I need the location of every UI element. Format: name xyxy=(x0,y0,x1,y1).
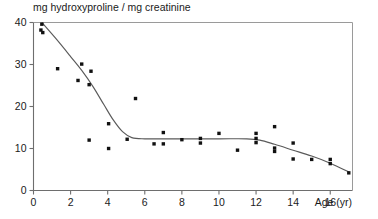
data-point xyxy=(180,138,183,141)
chart-figure: 010203040 0246810121416 mg hydroxyprolin… xyxy=(0,0,378,219)
data-point xyxy=(273,125,276,128)
x-tick-label: 14 xyxy=(287,196,299,208)
data-point xyxy=(41,31,44,34)
y-tick-label: 20 xyxy=(15,100,27,112)
y-tick-label: 0 xyxy=(21,184,27,196)
data-point xyxy=(107,147,110,150)
x-tick-label: 12 xyxy=(250,196,262,208)
data-point xyxy=(199,137,202,140)
data-point xyxy=(217,132,220,135)
x-axis-label: Age (yr) xyxy=(315,196,352,208)
data-point xyxy=(87,83,90,86)
data-point xyxy=(87,138,90,141)
plot-border-top-right xyxy=(34,23,353,191)
data-point xyxy=(56,67,59,70)
data-point xyxy=(80,62,83,65)
data-point xyxy=(236,148,239,151)
data-point xyxy=(254,137,257,140)
data-point xyxy=(89,70,92,73)
data-point xyxy=(76,79,79,82)
data-points xyxy=(39,22,350,174)
data-point xyxy=(162,142,165,145)
trend-line xyxy=(42,23,349,173)
axis-spines xyxy=(34,23,353,191)
data-point xyxy=(254,132,257,135)
data-point xyxy=(310,158,313,161)
y-tick-label: 30 xyxy=(15,58,27,70)
data-point xyxy=(347,171,350,174)
x-tick-label: 2 xyxy=(68,196,74,208)
y-axis-ticks xyxy=(30,23,34,191)
x-tick-label: 6 xyxy=(142,196,148,208)
y-tick-label: 40 xyxy=(15,16,27,28)
x-axis-tick-labels: 0246810121416 xyxy=(31,196,337,208)
data-point xyxy=(291,157,294,160)
x-tick-label: 4 xyxy=(105,196,111,208)
y-tick-label: 10 xyxy=(15,142,27,154)
data-point xyxy=(254,141,257,144)
scatter-plot-svg: 010203040 0246810121416 mg hydroxyprolin… xyxy=(0,0,378,219)
data-point xyxy=(329,162,332,165)
data-point xyxy=(125,138,128,141)
data-point xyxy=(329,158,332,161)
data-point xyxy=(291,141,294,144)
data-point xyxy=(40,22,43,25)
x-tick-label: 0 xyxy=(31,196,37,208)
data-point xyxy=(152,142,155,145)
data-point xyxy=(162,131,165,134)
x-tick-label: 8 xyxy=(179,196,185,208)
data-point xyxy=(107,122,110,125)
plot-frame xyxy=(34,23,353,191)
y-axis-tick-labels: 010203040 xyxy=(15,16,27,196)
data-point xyxy=(134,97,137,100)
data-point xyxy=(199,141,202,144)
chart-title: mg hydroxyproline / mg creatinine xyxy=(33,1,191,13)
data-point xyxy=(273,150,276,153)
data-point xyxy=(273,146,276,149)
x-tick-label: 10 xyxy=(213,196,225,208)
x-axis-ticks xyxy=(34,191,331,195)
